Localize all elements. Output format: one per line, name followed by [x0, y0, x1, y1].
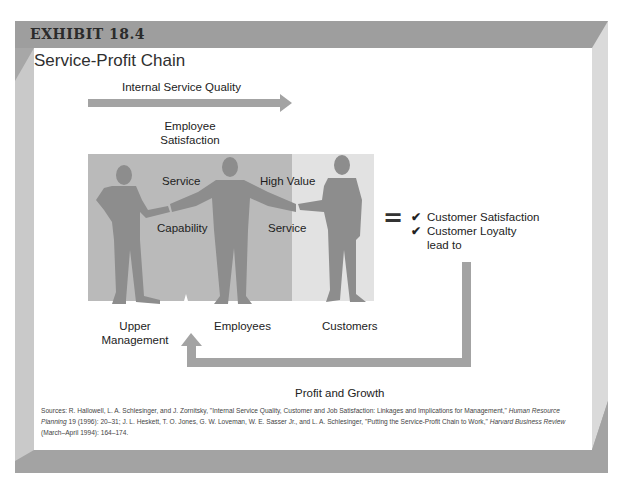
outcome-text: Customer Satisfaction	[427, 211, 540, 223]
employee-satisfaction-line-2: Satisfaction	[150, 133, 230, 147]
outcome-text: Customer Loyalty	[427, 225, 516, 237]
upper-management-label: Upper Management	[100, 319, 170, 347]
employee-satisfaction-line-1: Employee	[150, 119, 230, 133]
service-value-label: Service	[268, 222, 306, 234]
employee-satisfaction-label: Employee Satisfaction	[150, 119, 230, 147]
capability-label: Capability	[157, 222, 208, 234]
customers-label: Customers	[322, 319, 378, 333]
upper-management-line-2: Management	[100, 333, 170, 347]
check-icon: ✔	[411, 210, 427, 224]
outcomes-tail: lead to	[411, 238, 540, 252]
sources-citation: Sources: R. Hallowell, L. A. Schlesinger…	[41, 405, 586, 438]
internal-service-quality-arrow	[88, 94, 292, 112]
upper-management-line-1: Upper	[100, 319, 170, 333]
sources-prefix: Sources: R. Hallowell, L. A. Schlesinger…	[41, 407, 509, 414]
sources-suffix: (March–April 1994): 164–174.	[41, 429, 128, 436]
check-icon: ✔	[411, 224, 427, 238]
equals-sign: =	[383, 204, 403, 232]
employees-label: Employees	[214, 319, 271, 333]
internal-service-quality-label: Internal Service Quality	[122, 80, 241, 94]
outcome-item: ✔Customer Loyalty	[411, 224, 540, 238]
profit-growth-label: Profit and Growth	[295, 386, 384, 400]
outcome-item: ✔Customer Satisfaction	[411, 210, 540, 224]
high-value-label: High Value	[260, 175, 315, 187]
outcomes-list: ✔Customer Satisfaction ✔Customer Loyalty…	[411, 210, 540, 252]
service-label: Service	[162, 175, 200, 187]
journal-title: Harvard Business Review	[490, 418, 566, 425]
sources-mid: 19 (1996): 20–31; J. L. Heskett, T. O. J…	[67, 418, 490, 425]
